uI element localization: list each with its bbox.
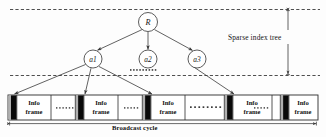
sparse-index-tree-label: Sparse index tree	[228, 33, 281, 42]
broadcast-bar: Info frame Info frame Info frame Info fr…	[8, 95, 318, 120]
sparse-index-tree-figure: R a1 a2 a3	[0, 0, 326, 137]
node-a2-label: a2	[144, 55, 152, 64]
info-frame-5-line1: Info	[297, 99, 309, 106]
node-root-label: R	[144, 18, 150, 27]
broadcast-cycle-label: Broadcast cycle	[112, 124, 158, 131]
figure-canvas: R a1 a2 a3	[0, 0, 326, 137]
index-block-4[interactable]	[224, 95, 233, 120]
info-frame-2-line2: frame	[93, 108, 110, 115]
info-frame-2-line1: Info	[95, 99, 107, 106]
sparse-index-span-arrow	[286, 11, 290, 75]
tree-edges	[98, 30, 193, 51]
broadcast-cycle-arrow	[10, 122, 317, 126]
info-frame-4-line2: frame	[244, 108, 261, 115]
index-block-1[interactable]	[8, 95, 16, 120]
node-a1-label: a1	[89, 55, 96, 64]
edge-a1-block2	[85, 68, 91, 94]
info-frame-3-line1: Info	[162, 99, 174, 106]
tree-node-labels: R a1 a2 a3	[89, 18, 201, 64]
edge-a1-block1	[15, 65, 86, 95]
edge-root-a3	[155, 30, 193, 51]
edge-a3-block4	[193, 67, 234, 95]
index-block-5[interactable]	[280, 95, 289, 120]
index-pointer-edges	[15, 65, 235, 95]
info-frame-3-line2: frame	[160, 108, 177, 115]
edge-root-a1	[98, 30, 143, 51]
node-a3-label: a3	[193, 55, 201, 64]
info-frame-1-line2: frame	[26, 108, 43, 115]
info-frame-1-line1: Info	[28, 99, 40, 106]
index-block-3[interactable]	[142, 95, 151, 120]
sibling-ellipsis-dots	[130, 69, 156, 71]
edge-a1-block3	[99, 67, 152, 95]
index-block-2[interactable]	[75, 95, 84, 120]
info-frame-4-line1: Info	[246, 99, 258, 106]
info-frame-5-line2: frame	[295, 108, 312, 115]
